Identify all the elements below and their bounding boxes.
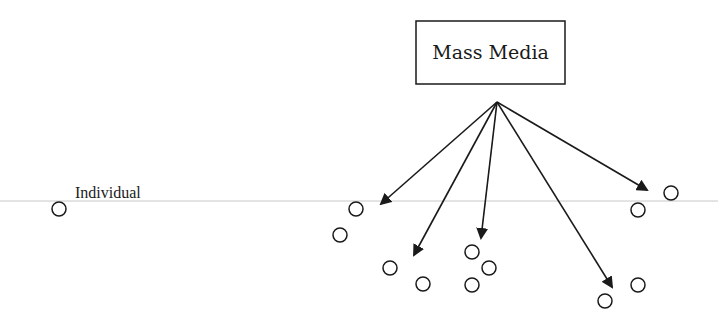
audience-member-circle (465, 278, 479, 292)
influence-arrow (497, 102, 612, 287)
audience-member-circle (465, 245, 479, 259)
mass-media-diagram: Mass Media Individual (0, 0, 718, 322)
audience-circles (333, 186, 678, 308)
influence-arrow (481, 102, 497, 238)
individual-node: Individual (52, 184, 141, 216)
mass-media-label: Mass Media (432, 41, 549, 63)
audience-member-circle (333, 228, 347, 242)
audience-member-circle (482, 261, 496, 275)
influence-arrow (497, 102, 647, 190)
influence-arrow (381, 102, 497, 204)
audience-member-circle (598, 294, 612, 308)
individual-circle (52, 202, 66, 216)
audience-member-circle (631, 203, 645, 217)
influence-arrow (414, 102, 497, 255)
audience-member-circle (664, 186, 678, 200)
individual-label: Individual (75, 184, 141, 201)
audience-member-circle (383, 261, 397, 275)
audience-member-circle (416, 277, 430, 291)
audience-member-circle (349, 202, 363, 216)
audience-member-circle (631, 278, 645, 292)
influence-arrows (381, 102, 647, 287)
mass-media-box: Mass Media (416, 21, 565, 84)
